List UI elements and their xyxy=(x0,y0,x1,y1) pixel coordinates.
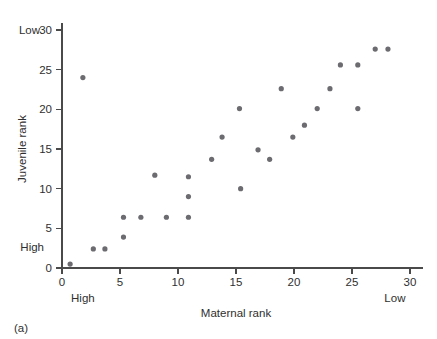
x-tick-label-0: 0 xyxy=(59,276,65,288)
data-point xyxy=(164,215,169,220)
data-point xyxy=(355,106,360,111)
data-point xyxy=(385,46,390,51)
x-tick-label-25: 25 xyxy=(346,276,359,288)
data-point xyxy=(91,246,96,251)
data-point xyxy=(102,246,107,251)
data-point xyxy=(338,62,343,67)
y-axis-low-end-label: High xyxy=(20,241,44,253)
x-tick-label-10: 10 xyxy=(172,276,185,288)
data-point xyxy=(138,215,143,220)
data-point xyxy=(279,86,284,91)
y-tick-label-0: 0 xyxy=(46,262,52,274)
axes xyxy=(56,23,423,274)
data-point xyxy=(186,174,191,179)
data-point xyxy=(186,215,191,220)
x-axis-high-end-label: High xyxy=(71,292,95,304)
panel-label: (a) xyxy=(14,322,28,334)
data-point xyxy=(68,261,73,266)
data-point xyxy=(219,135,224,140)
data-point xyxy=(209,157,214,162)
data-point xyxy=(121,234,126,239)
data-point xyxy=(315,106,320,111)
y-tick-label-15: 15 xyxy=(39,143,52,155)
x-tick-label-15: 15 xyxy=(230,276,243,288)
y-tick-label-30: 30 xyxy=(39,24,52,36)
data-point xyxy=(238,186,243,191)
data-point xyxy=(152,173,157,178)
y-tick-label-20: 20 xyxy=(39,103,52,115)
data-point xyxy=(121,215,126,220)
data-point xyxy=(80,75,85,80)
x-axis-low-end-label: Low xyxy=(384,292,406,304)
data-point xyxy=(290,135,295,140)
data-point xyxy=(255,147,260,152)
x-tick-label-20: 20 xyxy=(288,276,301,288)
x-tick-label-5: 5 xyxy=(117,276,123,288)
y-tick-label-5: 5 xyxy=(46,222,52,234)
maternal-vs-juvenile-rank-scatter: 051015202530051015202530Juvenile rankMat… xyxy=(0,0,437,339)
y-tick-label-10: 10 xyxy=(39,183,52,195)
y-axis-high-end-label: Low xyxy=(19,24,41,36)
data-point xyxy=(267,157,272,162)
data-point xyxy=(186,194,191,199)
scatter-plot-figure: 051015202530051015202530Juvenile rankMat… xyxy=(0,0,437,339)
y-axis-title: Juvenile rank xyxy=(16,115,28,183)
data-points-layer xyxy=(68,46,391,266)
axis-spines xyxy=(62,23,423,268)
x-tick-label-30: 30 xyxy=(404,276,417,288)
data-point xyxy=(327,86,332,91)
y-tick-label-25: 25 xyxy=(39,64,52,76)
data-point xyxy=(373,46,378,51)
data-point xyxy=(302,123,307,128)
axis-labels-layer: 051015202530051015202530Juvenile rankMat… xyxy=(14,24,416,334)
x-axis-title: Maternal rank xyxy=(201,307,272,319)
data-point xyxy=(355,62,360,67)
data-point xyxy=(237,106,242,111)
